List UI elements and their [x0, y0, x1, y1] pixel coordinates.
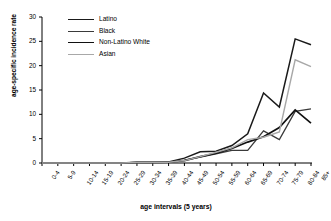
- legend-label: Black: [99, 28, 115, 35]
- chart-legend: LatinoBlackNon-Latino WhiteAsian: [68, 14, 150, 60]
- y-axis-title: age-specific incidence rate: [10, 0, 17, 121]
- legend-swatch: [68, 54, 94, 55]
- legend-swatch: [68, 19, 94, 20]
- y-tick-label: 25: [18, 37, 36, 44]
- y-tick-label: 0: [18, 159, 36, 166]
- legend-label: Non-Latino White: [99, 39, 150, 46]
- x-axis-title: age intervals (5 years): [40, 203, 312, 210]
- series-line-asian: [42, 60, 311, 163]
- legend-item-latino: Latino: [68, 14, 150, 26]
- legend-swatch: [68, 31, 94, 32]
- legend-label: Asian: [99, 51, 116, 58]
- legend-item-asian: Asian: [68, 49, 150, 61]
- y-tick-label: 15: [18, 86, 36, 93]
- y-tick-label: 10: [18, 110, 36, 117]
- series-line-black: [42, 109, 311, 163]
- y-tick-label: 5: [18, 135, 36, 142]
- legend-item-black: Black: [68, 26, 150, 38]
- y-tick-label: 20: [18, 62, 36, 69]
- legend-label: Latino: [99, 16, 117, 23]
- legend-swatch: [68, 42, 94, 43]
- y-tick-label: 30: [18, 13, 36, 20]
- series-line-non-latino-white: [42, 110, 311, 163]
- legend-item-non-latino-white: Non-Latino White: [68, 37, 150, 49]
